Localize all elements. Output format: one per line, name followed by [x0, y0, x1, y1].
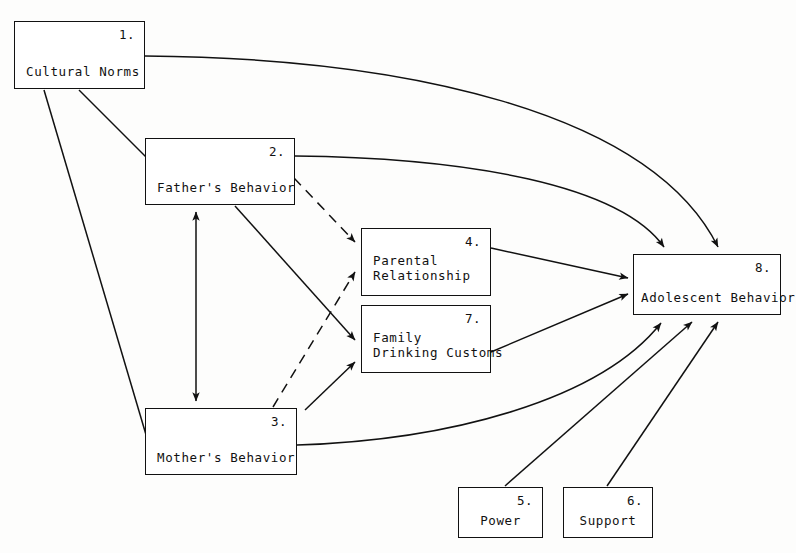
node-label: Power	[459, 513, 542, 528]
node-label: Support	[564, 513, 652, 528]
node-parental-relationship[interactable]: 4. Parental Relationship	[361, 228, 491, 296]
node-number: 3.	[271, 414, 287, 429]
edge-4-to-8	[491, 248, 628, 278]
node-number: 1.	[119, 27, 135, 42]
edge-7-to-8	[491, 294, 628, 352]
node-label-line-1: Parental	[373, 253, 438, 268]
node-fathers-behavior[interactable]: 2. Father's Behavior	[145, 138, 295, 205]
node-number: 7.	[465, 311, 481, 326]
node-label: Father's Behavior	[157, 180, 295, 195]
node-mothers-behavior[interactable]: 3. Mother's Behavior	[145, 408, 297, 475]
diagram-canvas: 1. Cultural Norms 2. Father's Behavior 3…	[0, 0, 796, 553]
node-family-drinking-customs[interactable]: 7. Family Drinking Customs	[361, 305, 491, 373]
node-support[interactable]: 6. Support	[563, 487, 653, 538]
node-number: 8.	[755, 260, 771, 275]
node-number: 6.	[627, 493, 643, 508]
node-cultural-norms[interactable]: 1. Cultural Norms	[14, 21, 145, 89]
edge-2-to-7	[235, 206, 355, 340]
edge-2-to-4	[294, 178, 355, 242]
node-adolescent-behavior[interactable]: 8. Adolescent Behavior	[633, 254, 781, 315]
edge-6-to-8	[607, 322, 718, 486]
node-label: Mother's Behavior	[157, 450, 295, 465]
node-number: 5.	[517, 493, 533, 508]
node-label-line-2: Drinking Customs	[373, 345, 503, 360]
node-number: 2.	[269, 144, 285, 159]
node-power[interactable]: 5. Power	[458, 487, 543, 538]
edge-3-to-7	[305, 362, 355, 410]
node-label-line-1: Family	[373, 330, 422, 345]
node-label: Adolescent Behavior	[641, 290, 795, 305]
node-label: Cultural Norms	[26, 64, 140, 79]
node-label-line-2: Relationship	[373, 268, 471, 283]
edge-3-to-4	[273, 272, 355, 407]
node-number: 4.	[465, 234, 481, 249]
edge-1-to-3	[44, 90, 152, 455]
